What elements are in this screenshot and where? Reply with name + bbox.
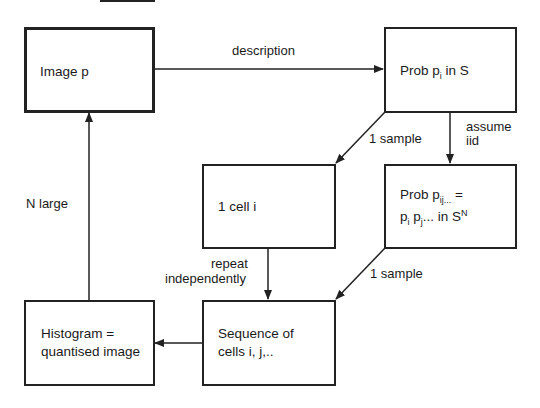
node-prob-sn-line2: pi pj... in SN — [400, 207, 468, 227]
edge-label-description: description — [232, 42, 295, 59]
node-histogram-line1: Histogram = — [41, 324, 114, 344]
edge-label-independently: independently — [165, 270, 246, 287]
node-sequence-line2: cells i, j,.. — [218, 342, 274, 362]
node-sequence-line1: Sequence of — [218, 324, 294, 344]
node-sequence: Sequence of cells i, j,.. — [202, 300, 336, 386]
edge-label-1-sample-top: 1 sample — [369, 130, 422, 147]
node-prob-sn: Prob pij... = pi pj... in SN — [384, 164, 517, 249]
prob-sn-l2-tail: ... in S — [423, 209, 461, 224]
node-cell: 1 cell i — [202, 164, 336, 249]
prob-s-tail: in S — [442, 63, 469, 78]
node-cell-label: 1 cell i — [218, 197, 256, 217]
node-prob-s: Prob pi in S — [384, 27, 517, 113]
node-histogram-line2: quantised image — [41, 342, 140, 362]
node-prob-sn-line1: Prob pij... = — [400, 185, 463, 205]
prob-s-main: Prob p — [400, 63, 440, 78]
prob-sn-l2-sup: N — [461, 208, 468, 218]
prob-sn-l2-a: p — [400, 209, 408, 224]
prob-sn-l2-b: p — [410, 209, 421, 224]
prob-sn-l1-tail: = — [451, 187, 463, 202]
edge-label-iid: iid — [466, 132, 479, 149]
prob-sn-l1-sub: ij... — [440, 195, 452, 205]
edge-label-1-sample-bottom: 1 sample — [370, 265, 423, 282]
prob-sn-l1-main: Prob p — [400, 187, 440, 202]
edge-label-n-large: N large — [26, 195, 68, 212]
node-image-label: Image p — [40, 62, 89, 82]
node-prob-s-label: Prob pi in S — [400, 61, 469, 81]
node-image: Image p — [24, 27, 155, 113]
node-histogram: Histogram = quantised image — [24, 300, 155, 386]
